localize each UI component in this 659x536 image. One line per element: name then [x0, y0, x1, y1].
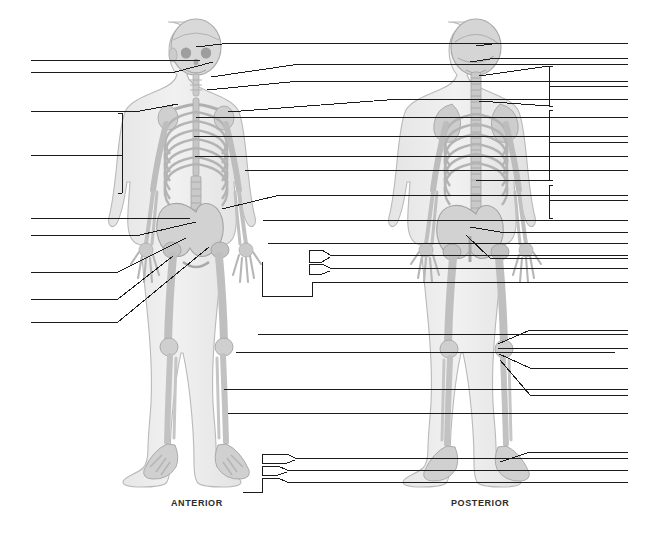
caption-posterior: POSTERIOR: [451, 498, 509, 508]
orbit-left: [181, 47, 191, 58]
femur-left: [168, 256, 173, 342]
fibula-right: [217, 358, 219, 438]
tibia-right: [223, 356, 226, 442]
worksheet-page: ANTERIOR POSTERIOR: [0, 0, 659, 536]
posterior-pelvis: [437, 205, 509, 262]
orbit-right: [201, 47, 211, 58]
skeleton-diagram: [0, 0, 659, 536]
posterior-skull: [451, 19, 501, 75]
fibula-left: [174, 358, 176, 438]
caption-anterior: ANTERIOR: [171, 498, 223, 508]
tibia-left: [167, 356, 170, 442]
femur-right: [219, 256, 224, 342]
